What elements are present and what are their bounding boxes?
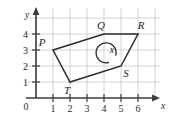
y-tick-label-1: 1: [23, 77, 28, 88]
vertex-label-t: T: [64, 84, 71, 96]
x-tick-label-5: 5: [119, 103, 124, 114]
origin-label: 0: [24, 101, 29, 112]
angle-label-x: x: [109, 44, 115, 55]
y-axis-arrow-icon: [33, 7, 40, 15]
axis-names: y x: [24, 10, 166, 111]
y-tick-label-3: 3: [23, 45, 28, 56]
x-axis-arrow-icon: [152, 95, 160, 102]
vertex-label-s: S: [123, 67, 129, 79]
coordinate-figure: 0 1 2 3 4 5 6 4 3 2 1 y x P Q R S T: [0, 0, 170, 123]
y-axis-label: y: [24, 10, 30, 20]
x-tick-label-4: 4: [102, 103, 107, 114]
vertex-label-q: Q: [97, 19, 105, 31]
y-tick-label-2: 2: [23, 61, 28, 72]
tick-marks: [32, 34, 138, 102]
figure-canvas: 0 1 2 3 4 5 6 4 3 2 1 y x P Q R S T: [0, 0, 170, 123]
vertex-label-p: P: [38, 36, 46, 48]
vertex-label-r: R: [137, 19, 145, 31]
vertex-labels: P Q R S T x: [38, 19, 145, 96]
x-tick-label-1: 1: [51, 103, 56, 114]
x-tick-label-2: 2: [68, 103, 73, 114]
x-axis-label: x: [160, 101, 166, 111]
x-tick-label-3: 3: [85, 103, 90, 114]
y-tick-label-4: 4: [23, 29, 28, 40]
x-tick-label-6: 6: [136, 103, 141, 114]
